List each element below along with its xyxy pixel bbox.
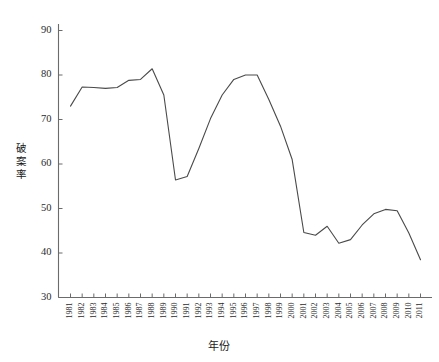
x-axis-tick-label: 2000 bbox=[287, 303, 296, 319]
x-axis-tick-label: 1993 bbox=[205, 303, 214, 319]
x-axis-tick-label: 2011 bbox=[415, 303, 424, 319]
x-axis-tick-label: 1986 bbox=[124, 303, 133, 319]
x-axis-tick-label: 1997 bbox=[252, 303, 261, 319]
x-axis-tick-label: 2003 bbox=[322, 303, 331, 319]
y-axis: 30405060708090 bbox=[41, 24, 63, 302]
x-axis-tick-label: 1995 bbox=[229, 303, 238, 319]
y-axis-title-char: 率 bbox=[16, 168, 26, 180]
x-axis-tick-label: 2006 bbox=[357, 303, 366, 319]
y-axis-tick-label: 70 bbox=[41, 113, 52, 124]
x-axis-tick-label: 1992 bbox=[194, 303, 203, 319]
x-axis-tick-label: 2010 bbox=[404, 303, 413, 319]
x-axis-tick-label: 1981 bbox=[65, 303, 74, 319]
x-axis-tick-label: 2005 bbox=[345, 303, 354, 319]
y-axis-tick-label: 50 bbox=[41, 202, 52, 213]
x-axis-tick-label: 2004 bbox=[334, 303, 343, 319]
y-axis-tick-label: 40 bbox=[41, 246, 52, 257]
x-axis-tick-label: 1996 bbox=[240, 303, 249, 319]
x-axis-tick-label: 2009 bbox=[392, 303, 401, 319]
x-axis-tick-labels: 1981198219831984198519861987198819891990… bbox=[65, 303, 424, 319]
data-series-group bbox=[71, 69, 421, 260]
y-axis-title-char: 破 bbox=[16, 142, 27, 154]
x-axis-tick-label: 1990 bbox=[170, 303, 179, 319]
x-axis-tick-label: 1983 bbox=[89, 303, 98, 319]
y-axis-title: 破案率 bbox=[16, 142, 27, 180]
y-axis-ticks bbox=[59, 31, 63, 298]
x-axis-tick-label: 2008 bbox=[380, 303, 389, 319]
y-axis-title-char: 案 bbox=[16, 155, 27, 167]
y-axis-tick-label: 80 bbox=[41, 68, 52, 79]
x-axis-tick-label: 1994 bbox=[217, 303, 226, 319]
y-axis-tick-label: 30 bbox=[41, 291, 52, 302]
x-axis-tick-label: 1991 bbox=[182, 303, 191, 319]
x-axis-tick-label: 2007 bbox=[369, 303, 378, 319]
x-axis-tick-label: 1988 bbox=[147, 303, 156, 319]
x-axis-tick-label: 2002 bbox=[310, 303, 319, 319]
x-axis-tick-label: 1982 bbox=[77, 303, 86, 319]
x-axis-tick-label: 1989 bbox=[159, 303, 168, 319]
x-axis-ticks bbox=[71, 294, 421, 298]
y-axis-tick-label: 90 bbox=[41, 24, 52, 35]
x-axis-tick-label: 1999 bbox=[275, 303, 284, 319]
x-axis-title: 年份 bbox=[208, 339, 230, 353]
x-axis-tick-label: 2001 bbox=[299, 303, 308, 319]
x-axis-tick-label: 1984 bbox=[100, 303, 109, 319]
x-axis-tick-label: 1985 bbox=[112, 303, 121, 319]
data-line-po-an-lv bbox=[71, 69, 421, 260]
line-chart: 30405060708090 1981198219831984198519861… bbox=[0, 0, 439, 362]
x-axis: 1981198219831984198519861987198819891990… bbox=[59, 294, 433, 319]
y-axis-tick-labels: 30405060708090 bbox=[41, 24, 52, 302]
y-axis-tick-label: 60 bbox=[41, 157, 52, 168]
x-axis-tick-label: 1987 bbox=[135, 303, 144, 319]
x-axis-tick-label: 1998 bbox=[264, 303, 273, 319]
chart-page: 30405060708090 1981198219831984198519861… bbox=[0, 0, 439, 362]
